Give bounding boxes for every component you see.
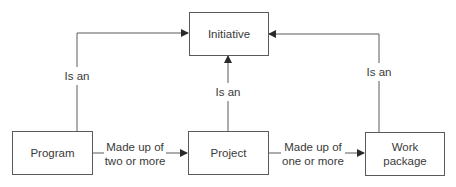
edge-label-project-workpackage: Made up of one or more <box>281 140 345 168</box>
edge-label-program-project-line1: Made up of <box>104 140 166 154</box>
edge-label-project-initiative: Is an <box>213 83 243 101</box>
edge-label-program-initiative: Is an <box>62 67 92 85</box>
edge-label-program-project-line2: two or more <box>104 154 166 168</box>
node-work-package: Work package <box>365 132 445 176</box>
edge-program-initiative <box>77 33 188 131</box>
node-initiative-label: Initiative <box>208 27 250 41</box>
node-project-label: Project <box>211 146 247 160</box>
edge-label-project-workpackage-line1: Made up of <box>281 140 345 154</box>
node-initiative: Initiative <box>189 12 269 56</box>
node-project: Project <box>188 131 269 175</box>
edge-workpackage-initiative <box>269 34 379 132</box>
node-program-label: Program <box>30 146 74 160</box>
node-program: Program <box>12 131 93 175</box>
edge-label-workpackage-initiative: Is an <box>364 63 394 81</box>
edge-label-program-project: Made up of two or more <box>104 140 166 168</box>
edge-label-project-workpackage-line2: one or more <box>281 154 345 168</box>
node-work-package-label: Work package <box>380 140 430 168</box>
